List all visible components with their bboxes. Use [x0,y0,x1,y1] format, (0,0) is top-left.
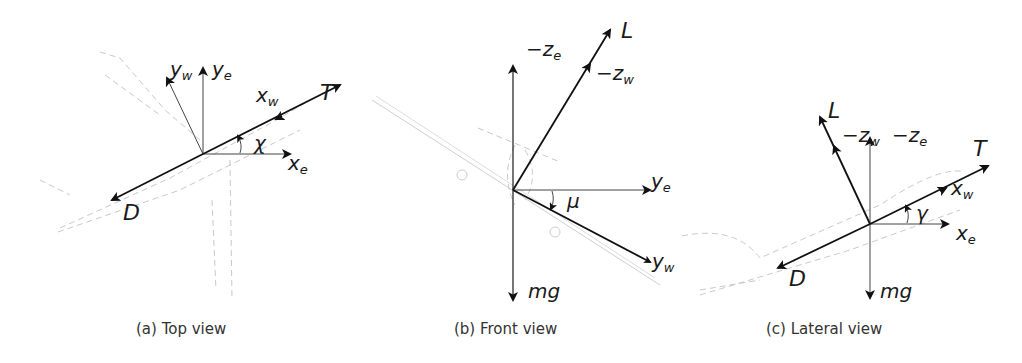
drag-vector [112,154,203,200]
label-xw-lateral: xw [950,176,974,202]
yw-axis [167,78,203,154]
caption-b: (b) Front view [454,320,557,338]
label-mu: μ [566,189,580,213]
chi-angle-arc [238,136,241,153]
label-thrust: T [320,80,335,105]
label-xe: xe [287,151,308,177]
label-xw: xw [255,83,279,109]
zw-arrow-mark-lateral [834,146,836,151]
label-lift: L [621,18,633,43]
label-chi: χ [253,131,267,155]
panel-lateral-view: L −zw −ze T xw xe D mg γ (c) Lateral vie… [682,98,988,338]
gamma-angle-arc [906,206,908,223]
label-xe-lateral: xe [955,221,976,247]
label-lift-lateral: L [828,98,840,123]
flight-mechanics-figure: yw ye xw xe T D χ (a) Top view −ze L −zw… [0,0,1022,363]
label-ye-front: ye [650,169,671,195]
drag-vector-lateral [778,224,870,268]
label-drag-lateral: D [789,266,806,291]
caption-a: (a) Top view [136,320,226,338]
label-ze: −ze [526,37,561,63]
yw-axis-front [513,190,650,262]
label-thrust-lateral: T [973,136,988,161]
label-zw: −zw [596,61,634,87]
label-mg-lateral: mg [880,279,912,303]
mu-angle-arc [551,191,553,209]
label-gamma: γ [916,201,929,225]
aircraft-sketch-lateral [682,171,965,295]
label-zw-lateral: −zw [842,123,880,149]
caption-c: (c) Lateral view [766,320,882,338]
aircraft-sketch-top [40,52,310,300]
label-ye: ye [211,57,232,83]
label-yw: yw [169,57,193,83]
label-drag: D [123,200,140,225]
label-mg-front: mg [528,279,560,303]
panel-front-view: −ze L −zw ye yw mg μ (b) Front view [372,18,675,338]
panel-top-view: yw ye xw xe T D χ (a) Top view [40,52,340,338]
label-ze-lateral: −ze [892,123,927,149]
label-yw-front: yw [651,249,675,275]
